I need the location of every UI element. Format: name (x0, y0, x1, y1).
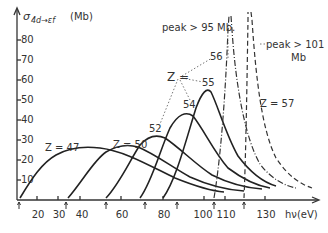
x-tick-130: 130 (256, 209, 275, 220)
svg-text:4d→εf: 4d→εf (31, 16, 56, 25)
label-z50: Z = 50 (113, 139, 147, 150)
y-tick-40: 40 (21, 114, 34, 125)
x-tick-60: 60 (116, 209, 129, 220)
label-z55: 55 (202, 77, 215, 88)
y-tick-30: 30 (21, 134, 34, 145)
photoionization-cross-section-chart: 80 70 60 50 40 30 20 10 σ 4d→εf (Mb) 20 … (0, 0, 328, 233)
y-tick-50: 50 (21, 94, 34, 105)
label-z57: Z = 57 (260, 98, 294, 109)
x-tick-100: 100 (193, 209, 212, 220)
x-tick-labels: 20 30 40 60 80 100 110 130 (32, 209, 276, 220)
x-tick-20: 20 (32, 209, 45, 220)
y-tick-60: 60 (21, 74, 34, 85)
svg-text:(Mb): (Mb) (70, 11, 93, 22)
label-z56: 56 (210, 51, 223, 62)
label-peak-101-unit: Mb (291, 52, 306, 63)
x-axis-title: hν(eV) (285, 209, 318, 220)
label-z54: 54 (183, 99, 196, 110)
x-tick-40: 40 (76, 209, 89, 220)
label-z47: Z = 47 (45, 142, 79, 153)
y-tick-80: 80 (21, 34, 34, 45)
y-tick-labels: 80 70 60 50 40 30 20 10 (21, 34, 34, 185)
y-axis-title: σ 4d→εf (Mb) (23, 10, 93, 25)
label-z-equals: Z = (167, 70, 189, 84)
x-tick-80: 80 (158, 209, 171, 220)
curve-z47 (20, 147, 224, 198)
svg-text:σ: σ (23, 10, 31, 23)
label-peak-95: peak > 95 Mb. (162, 22, 235, 33)
curve-labels: Z = 47 Z = 50 52 54 55 56 Z = 57 Z = pea… (45, 22, 324, 153)
x-tick-110: 110 (216, 209, 235, 220)
x-tick-30: 30 (53, 209, 66, 220)
label-peak-101: peak > 101 (266, 39, 324, 50)
label-z52: 52 (149, 123, 162, 134)
y-tick-70: 70 (21, 54, 34, 65)
y-tick-20: 20 (21, 154, 34, 165)
threshold-arrows (18, 202, 246, 209)
